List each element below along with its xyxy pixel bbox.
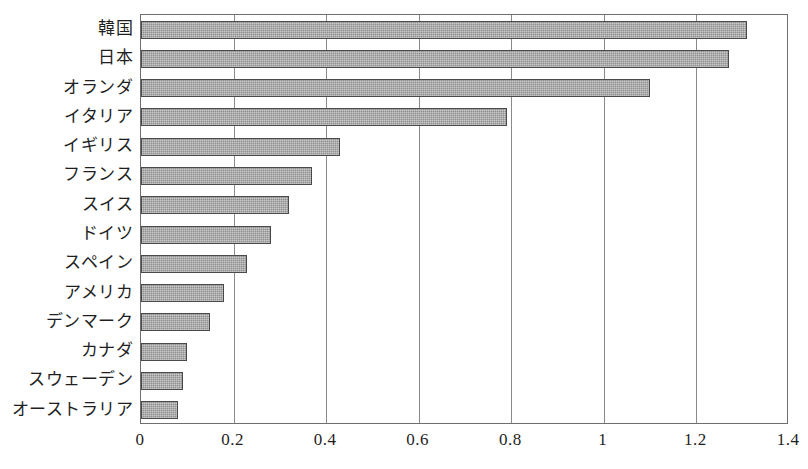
bar-row [141,279,787,308]
category-label: 韓国 [0,14,133,43]
bar [141,226,271,244]
x-tick-label: 1.4 [777,430,800,450]
category-label: デンマーク [0,307,133,336]
plot-area [140,14,788,424]
x-tick-label: 0.2 [221,430,244,450]
bar-chart: 韓国日本オランダイタリアイギリスフランススイスドイツスペインアメリカデンマークカ… [0,0,808,469]
bar-row [141,15,787,44]
bar [141,401,178,419]
bar-row [141,44,787,73]
bar [141,21,747,39]
bar [141,50,729,68]
bar-row [141,220,787,249]
x-tick-label: 0.6 [406,430,429,450]
bar-row [141,337,787,366]
category-label: オランダ [0,73,133,102]
category-label: イギリス [0,131,133,160]
bar-row [141,396,787,424]
category-label: スペイン [0,248,133,277]
bars-group [141,15,787,423]
bar-row [141,103,787,132]
x-tick-label: 1 [598,430,607,450]
bar [141,372,183,390]
category-label: スウェーデン [0,365,133,394]
category-label: カナダ [0,336,133,365]
bar [141,313,210,331]
bar [141,108,507,126]
bar [141,284,224,302]
bar [141,79,650,97]
x-tick-label: 0.8 [499,430,522,450]
bar-row [141,74,787,103]
bar [141,255,247,273]
category-label: フランス [0,160,133,189]
bar-row [141,161,787,190]
bar [141,196,289,214]
category-label: ドイツ [0,219,133,248]
bar [141,343,187,361]
bar-row [141,132,787,161]
bar [141,138,340,156]
category-label: アメリカ [0,278,133,307]
bar [141,167,312,185]
bar-row [141,366,787,395]
x-tick-label: 1.2 [684,430,707,450]
x-tick-label: 0.4 [314,430,337,450]
bar-row [141,308,787,337]
category-label: スイス [0,190,133,219]
bar-row [141,249,787,278]
x-tick-label: 0 [136,430,145,450]
category-label: 日本 [0,43,133,72]
category-label: イタリア [0,102,133,131]
bar-row [141,191,787,220]
x-axis-tick-labels: 00.20.40.60.811.21.4 [0,430,808,460]
category-axis-labels: 韓国日本オランダイタリアイギリスフランススイスドイツスペインアメリカデンマークカ… [0,14,133,424]
category-label: オーストラリア [0,395,133,424]
